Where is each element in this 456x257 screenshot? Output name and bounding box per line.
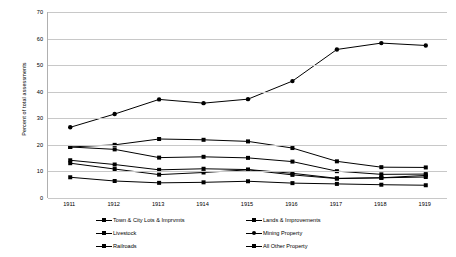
x-axis-tick-label: 1918 [360,200,400,208]
legend-item[interactable]: Railroads [96,240,246,252]
legend-item[interactable]: Town & City Lots & Imprvmts [96,214,246,226]
legend-row: RailroadsAll Other Property [96,240,396,252]
gridline [48,92,447,93]
data-point-marker [157,97,161,101]
plot-area [47,12,447,198]
data-point-marker [157,137,161,141]
legend-marker-icon [246,242,262,250]
legend-label: Lands & Improvements [262,216,321,224]
gridline [48,65,447,66]
x-axis-tick-label: 1913 [138,200,178,208]
data-point-marker [290,146,294,150]
data-point-marker [335,182,339,186]
data-point-marker [202,155,206,159]
gridline [48,198,447,199]
data-point-marker [68,125,72,129]
data-point-marker [379,183,383,187]
data-point-marker [202,180,206,184]
y-axis-tick-label: 30 [21,115,43,121]
data-point-marker [157,173,161,177]
legend-marker-icon [246,229,262,237]
data-point-marker [112,112,116,116]
data-point-marker [202,167,206,171]
y-axis-tick-labels: 010203040506070 [19,12,43,198]
data-point-marker [424,175,428,179]
data-point-marker [424,165,428,169]
y-axis-tick-label: 0 [21,195,43,201]
data-point-marker [379,41,383,45]
x-axis-tick-label: 1911 [49,200,89,208]
data-point-marker [290,160,294,164]
data-point-marker [113,167,117,171]
legend-label: All Other Property [262,242,307,250]
data-point-marker [113,147,117,151]
data-point-marker [113,163,117,167]
data-point-marker [157,156,161,160]
gridline [48,171,447,172]
x-axis-tick-label: 1915 [227,200,267,208]
chart-legend: Town & City Lots & ImprvmtsLands & Impro… [96,214,396,254]
legend-marker-icon [96,242,112,250]
y-axis-tick-label: 60 [21,36,43,42]
data-point-marker [379,176,383,180]
legend-item[interactable]: Livestock [96,227,246,239]
data-point-marker [202,138,206,142]
data-point-marker [68,175,72,179]
legend-row: Town & City Lots & ImprvmtsLands & Impro… [96,214,396,226]
data-point-marker [246,97,250,101]
legend-item[interactable]: Lands & Improvements [246,214,396,226]
legend-row: LivestockMining Property [96,227,396,239]
data-point-marker [379,165,383,169]
legend-item[interactable]: All Other Property [246,240,396,252]
legend-item[interactable]: Mining Property [246,227,396,239]
data-point-marker [68,161,72,165]
legend-label: Railroads [112,242,137,250]
data-point-marker [113,179,117,183]
line-chart: Percent of total assessments 01020304050… [0,0,456,257]
y-axis-tick-label: 70 [21,9,43,15]
x-axis-tick-label: 1916 [271,200,311,208]
x-axis-tick-label: 1919 [405,200,445,208]
series-line [70,43,426,127]
data-point-marker [335,177,339,181]
x-axis-tick-label: 1917 [316,200,356,208]
legend-marker-icon [96,216,112,224]
data-point-marker [290,181,294,185]
y-axis-tick-label: 40 [21,89,43,95]
data-point-marker [335,159,339,163]
data-point-marker [246,179,250,183]
y-axis-tick-label: 50 [21,62,43,68]
data-point-marker [335,47,339,51]
data-point-marker [379,172,383,176]
legend-label: Livestock [112,229,136,237]
gridline [48,39,447,40]
x-axis-tick-label: 1914 [183,200,223,208]
data-point-marker [290,173,294,177]
data-point-marker [290,79,294,83]
data-point-marker [424,43,428,47]
data-point-marker [157,181,161,185]
data-point-marker [246,139,250,143]
data-point-marker [424,183,428,187]
legend-marker-icon [96,229,112,237]
series-lines [48,12,448,198]
gridline [48,12,447,13]
data-point-marker [246,156,250,160]
y-axis-tick-label: 10 [21,168,43,174]
data-point-marker [201,101,205,105]
y-axis-tick-label: 20 [21,142,43,148]
legend-label: Mining Property [262,229,302,237]
x-axis-tick-label: 1912 [94,200,134,208]
legend-label: Town & City Lots & Imprvmts [112,216,185,224]
x-axis-tick-labels: 191119121913191419151916191719181919 [47,200,447,212]
gridline [48,118,447,119]
legend-marker-icon [246,216,262,224]
gridline [48,145,447,146]
